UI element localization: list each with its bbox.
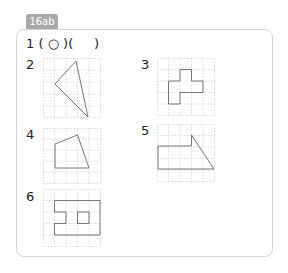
figure-4-grid — [43, 128, 101, 184]
figure-6-grid — [43, 189, 101, 247]
question-1: 1 ( ○ )( ) — [26, 36, 99, 52]
figure-2-number: 2 — [26, 58, 34, 72]
question-1-number: 1 — [26, 36, 34, 51]
figure-5-grid — [157, 124, 215, 182]
cross-shape-figure — [157, 58, 215, 116]
figure-6-number: 6 — [26, 190, 34, 204]
triangle-figure — [43, 58, 101, 118]
figure-2-grid — [43, 58, 101, 118]
figure-3-number: 3 — [141, 58, 149, 72]
quadrilateral-figure — [43, 128, 101, 184]
figure-4-number: 4 — [26, 128, 34, 142]
frame-figure — [43, 189, 101, 247]
section-tag: 16ab — [26, 14, 58, 30]
pentagon-figure — [157, 124, 215, 182]
question-1-answer: ( ○ )( ) — [38, 36, 99, 51]
figure-5-number: 5 — [141, 124, 149, 138]
figure-3-grid — [157, 58, 215, 116]
